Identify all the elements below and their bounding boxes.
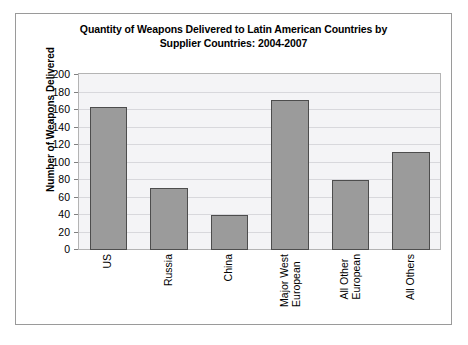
y-tick-label: 120 xyxy=(30,138,70,150)
y-tick-label: 140 xyxy=(30,121,70,133)
x-label-slot: Major West European xyxy=(260,252,321,326)
y-tick-label: 160 xyxy=(30,103,70,115)
y-tick-mark xyxy=(74,92,78,93)
x-label-slot: China xyxy=(199,252,260,326)
chart-title-line-2: Supplier Countries: 2004-2007 xyxy=(36,37,431,51)
y-tick-mark xyxy=(74,127,78,128)
y-tick-label: 0 xyxy=(30,243,70,255)
y-tick-label: 60 xyxy=(30,191,70,203)
plot-area xyxy=(78,73,441,250)
gridline xyxy=(79,92,440,93)
y-tick-label: 40 xyxy=(30,208,70,220)
gridline xyxy=(79,197,440,198)
gridline xyxy=(79,162,440,163)
x-label-slot: Russia xyxy=(139,252,200,326)
y-tick-mark xyxy=(74,249,78,250)
gridline xyxy=(79,232,440,233)
y-tick-mark xyxy=(74,144,78,145)
x-tick-label: China xyxy=(224,254,236,281)
y-tick-label: 180 xyxy=(30,86,70,98)
y-tick-label: 100 xyxy=(30,156,70,168)
y-tick-label: 20 xyxy=(30,226,70,238)
chart-title: Quantity of Weapons Delivered to Latin A… xyxy=(36,23,431,50)
gridline xyxy=(79,214,440,215)
y-tick-mark xyxy=(74,214,78,215)
x-axis-labels: USRussiaChinaMajor West EuropeanAll Othe… xyxy=(78,252,441,326)
y-tick-mark xyxy=(74,109,78,110)
x-tick-label: Russia xyxy=(163,254,175,286)
gridlines xyxy=(79,74,440,249)
y-tick-mark xyxy=(74,179,78,180)
gridline xyxy=(79,109,440,110)
y-tick-mark xyxy=(74,232,78,233)
x-tick-label: Major West European xyxy=(278,254,301,307)
x-tick-label: US xyxy=(103,254,115,269)
gridline xyxy=(79,127,440,128)
y-tick-mark xyxy=(74,162,78,163)
y-tick-label: 80 xyxy=(30,173,70,185)
x-label-slot: All Other European xyxy=(320,252,381,326)
chart-title-line-1: Quantity of Weapons Delivered to Latin A… xyxy=(36,23,431,37)
x-tick-label: All Others xyxy=(405,254,417,300)
y-tick-mark xyxy=(74,197,78,198)
y-tick-mark xyxy=(74,74,78,75)
x-label-slot: All Others xyxy=(381,252,442,326)
gridline xyxy=(79,144,440,145)
x-tick-label: All Other European xyxy=(339,254,362,300)
chart-figure: Quantity of Weapons Delivered to Latin A… xyxy=(15,13,452,325)
x-label-slot: US xyxy=(78,252,139,326)
y-tick-label: 200 xyxy=(30,68,70,80)
gridline xyxy=(79,179,440,180)
